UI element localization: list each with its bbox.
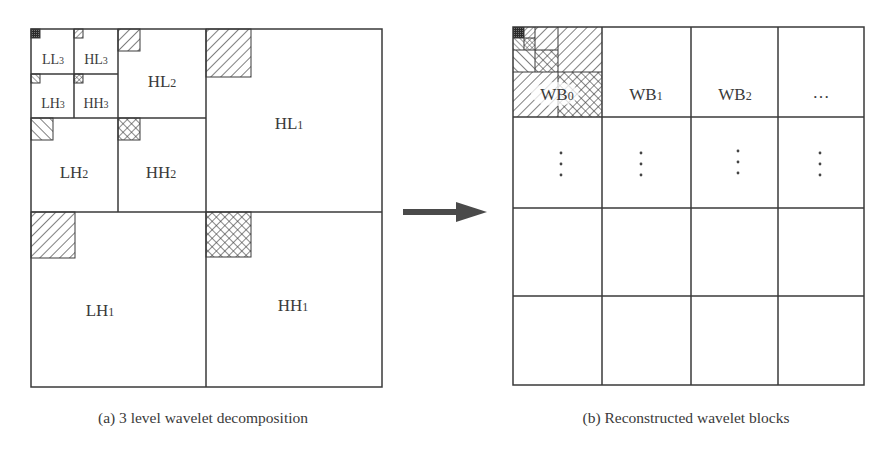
- subband-labels: LL3 HL3 LH3 HH3 HL2 LH2 HH2 HL1 LH1 HH1: [41, 52, 308, 320]
- hh1-marker: [206, 212, 251, 257]
- ll3-marker: [31, 29, 40, 38]
- label-lh1: LH1: [86, 301, 115, 320]
- wavelet-figure: LL3 HL3 LH3 HH3 HL2 LH2 HH2 HL1 LH1 HH1 …: [0, 0, 894, 449]
- hl1-marker: [206, 29, 251, 77]
- panel-a-decomposition: LL3 HL3 LH3 HH3 HL2 LH2 HH2 HL1 LH1 HH1 …: [31, 29, 382, 427]
- label-hl2: HL2: [148, 72, 177, 91]
- hh2-marker: [118, 118, 140, 140]
- lh1-marker: [31, 212, 75, 258]
- lh3-marker: [31, 74, 40, 83]
- label-wb1: WB1: [629, 85, 662, 104]
- panel-b-wavelet-blocks: WB0 WB1 WB2 … (b) Reconstructed wavelet …: [513, 27, 864, 427]
- label-hh3: HH3: [83, 96, 108, 111]
- lh2-marker: [31, 118, 53, 140]
- arrow-right-icon: [403, 202, 487, 222]
- label-hl3: HL3: [84, 52, 108, 67]
- caption-a: (a) 3 level wavelet decomposition: [98, 409, 308, 427]
- label-wb2: WB2: [718, 85, 751, 104]
- label-lh3: LH3: [41, 96, 65, 111]
- label-ll3: LL3: [42, 52, 64, 67]
- label-ellipsis: …: [813, 83, 830, 102]
- label-hh1: HH1: [278, 296, 309, 315]
- decomposition-grid: [31, 29, 382, 387]
- hh3-marker: [74, 74, 83, 83]
- label-hh2: HH2: [146, 163, 177, 182]
- label-hl1: HL1: [275, 114, 304, 133]
- hl3-marker: [74, 29, 83, 38]
- caption-b: (b) Reconstructed wavelet blocks: [582, 409, 789, 427]
- label-lh2: LH2: [60, 163, 89, 182]
- hl2-marker: [118, 29, 140, 51]
